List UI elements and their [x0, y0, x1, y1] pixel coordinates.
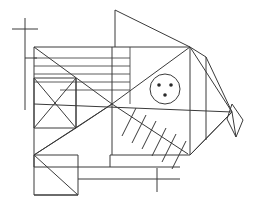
tail-tip-diamond	[227, 104, 243, 137]
rib-spine	[112, 104, 188, 154]
lateral-line	[34, 104, 232, 112]
lower-fin-box	[34, 155, 78, 195]
eye-dots	[157, 83, 173, 97]
rib-hatches	[122, 108, 186, 169]
dorsal-fin	[115, 10, 190, 47]
eye-circle	[150, 74, 180, 104]
pectoral-x-box	[34, 78, 76, 128]
fish-line-drawing	[0, 0, 256, 210]
bottom-registration-mark	[78, 167, 180, 192]
drawing-canvas	[0, 0, 256, 210]
body-outline	[34, 47, 232, 167]
tail-fin	[190, 47, 232, 155]
